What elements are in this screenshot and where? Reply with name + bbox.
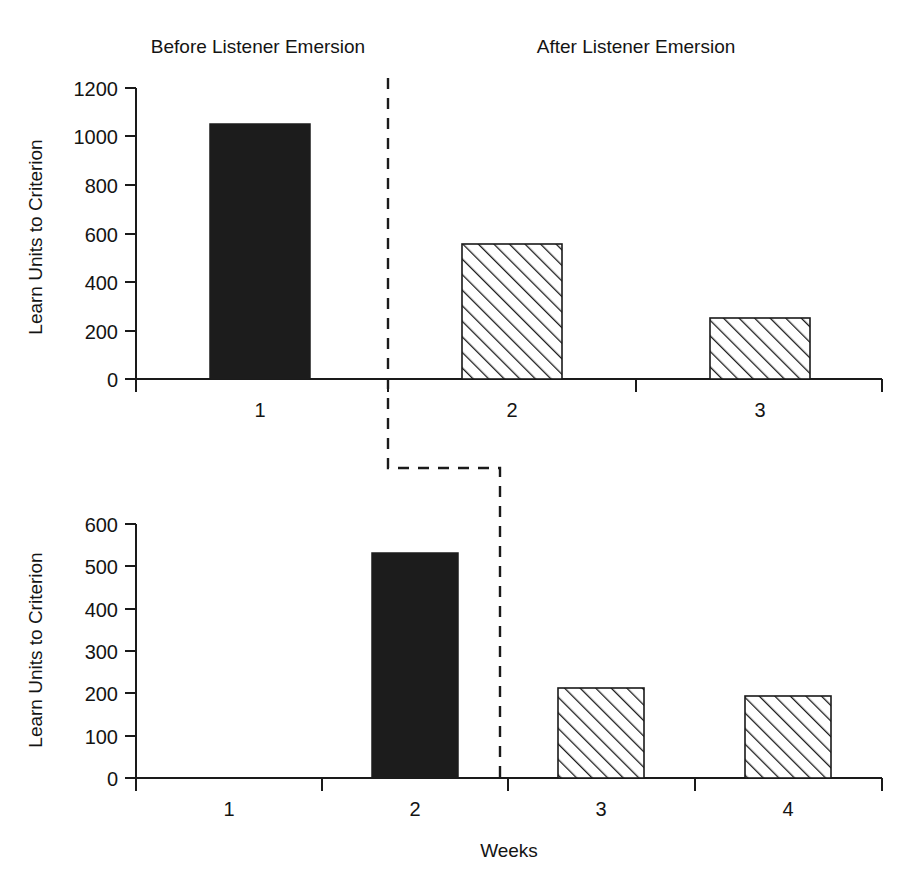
top-panel-ytick-200: 200 bbox=[85, 321, 118, 343]
bottom-panel-xtick-1: 1 bbox=[223, 798, 234, 820]
bottom-panel-xtick-2: 2 bbox=[409, 798, 420, 820]
x-axis-label: Weeks bbox=[480, 840, 538, 861]
top-panel-bar-week-1 bbox=[210, 124, 310, 379]
bottom-panel-xtick-3: 3 bbox=[595, 798, 606, 820]
bottom-panel-ytick-400: 400 bbox=[85, 599, 118, 621]
bottom-panel-bar-week-3 bbox=[558, 688, 644, 778]
bottom-panel-ytick-100: 100 bbox=[85, 726, 118, 748]
two-panel-bar-chart: Before Listener Emersion After Listener … bbox=[0, 0, 920, 880]
top-panel-ytick-1200: 1200 bbox=[74, 78, 119, 100]
top-panel-y-axis-label: Learn Units to Criterion bbox=[25, 139, 46, 334]
top-panel-bar-week-2 bbox=[462, 244, 562, 379]
bottom-panel-ytick-200: 200 bbox=[85, 683, 118, 705]
top-panel-title-left: Before Listener Emersion bbox=[151, 36, 365, 57]
bottom-panel-y-axis-label: Learn Units to Criterion bbox=[25, 552, 46, 747]
figure-canvas: Before Listener Emersion After Listener … bbox=[0, 0, 920, 880]
bottom-panel-ytick-500: 500 bbox=[85, 556, 118, 578]
top-panel-xtick-2: 2 bbox=[506, 399, 517, 421]
bottom-panel-bar-week-4 bbox=[745, 696, 831, 778]
bottom-panel-ytick-300: 300 bbox=[85, 641, 118, 663]
top-panel-ytick-1000: 1000 bbox=[74, 126, 119, 148]
top-panel-bar-week-3 bbox=[710, 318, 810, 379]
top-panel-ytick-600: 600 bbox=[85, 224, 118, 246]
top-panel-ytick-800: 800 bbox=[85, 175, 118, 197]
bottom-panel-ytick-0: 0 bbox=[107, 768, 118, 790]
bottom-panel-xtick-4: 4 bbox=[782, 798, 793, 820]
top-panel-xtick-3: 3 bbox=[754, 399, 765, 421]
bottom-panel-ytick-600: 600 bbox=[85, 514, 118, 536]
top-panel-xtick-1: 1 bbox=[254, 399, 265, 421]
top-panel-ytick-400: 400 bbox=[85, 272, 118, 294]
bottom-panel-bar-week-2 bbox=[372, 553, 458, 778]
top-panel-title-right: After Listener Emersion bbox=[537, 36, 736, 57]
top-panel-ytick-0: 0 bbox=[107, 369, 118, 391]
